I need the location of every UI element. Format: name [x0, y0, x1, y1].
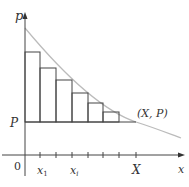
point-label: (X, P) [137, 107, 168, 120]
xi-label: xi [70, 164, 78, 178]
x-axis-label: x [178, 163, 185, 176]
x1-label: x1 [37, 164, 48, 178]
y-axis-label: p [15, 8, 24, 23]
x-axis-arrow-icon [178, 153, 185, 158]
demand-curve-diagram: p x 0 P (X, P) x1 xi X [0, 0, 189, 187]
origin-label: 0 [14, 160, 21, 173]
bars [25, 52, 119, 122]
price-label: P [9, 116, 19, 130]
X-label: X [131, 163, 141, 177]
